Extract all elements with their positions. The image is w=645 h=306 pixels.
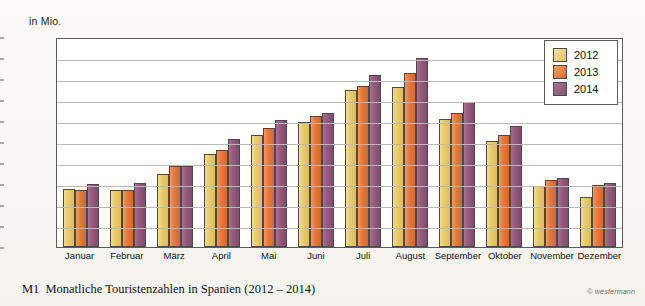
bar-2012 <box>251 135 263 247</box>
bar-2013 <box>122 190 134 247</box>
legend-label: 2012 <box>574 49 598 61</box>
bar-group <box>439 39 475 247</box>
y-axis-tick-mark <box>0 164 4 165</box>
bar-groups <box>57 39 622 247</box>
legend-swatch-icon <box>553 65 567 79</box>
bar-2014 <box>604 183 616 247</box>
y-axis-tick-mark <box>0 227 4 228</box>
gridline <box>57 228 622 229</box>
gridline <box>57 165 622 166</box>
x-axis-label: April <box>198 250 244 261</box>
bar-2014 <box>557 178 569 247</box>
gridline <box>57 81 622 82</box>
bar-2012 <box>110 190 122 247</box>
bar-2014 <box>416 58 428 247</box>
y-axis-tick-mark <box>0 59 4 60</box>
chart-figure: in Mio. 109876543210 JanuarFebruarMärzAp… <box>0 0 645 306</box>
x-axis-label: September <box>435 250 481 261</box>
plot-area <box>56 38 623 248</box>
bar-2013 <box>263 128 275 247</box>
y-axis-tick-mark <box>0 101 4 102</box>
x-axis-label: Juli <box>340 250 386 261</box>
legend-item-2013: 2013 <box>553 65 611 79</box>
bar-2013 <box>404 73 416 247</box>
bar-2014 <box>134 183 146 247</box>
gridline <box>57 60 622 61</box>
y-axis-tick-mark <box>0 143 4 144</box>
bar-2012 <box>63 189 75 247</box>
y-axis-tick-mark <box>0 122 4 123</box>
x-axis-label: Januar <box>57 250 103 261</box>
figure-title: Monatliche Touristenzahlen in Spanien (2… <box>45 282 315 296</box>
x-axis-labels: JanuarFebruarMärzAprilMaiJuniJuliAugustS… <box>56 250 623 268</box>
bar-group <box>110 39 146 247</box>
bar-group <box>298 39 334 247</box>
x-axis-label: Oktober <box>482 250 528 261</box>
bar-2012 <box>533 186 545 247</box>
bar-group <box>63 39 99 247</box>
legend-label: 2013 <box>574 66 598 78</box>
chart-legend: 201220132014 <box>544 40 618 105</box>
legend-swatch-icon <box>553 82 567 96</box>
x-axis-label: Februar <box>104 250 150 261</box>
bar-2014 <box>228 139 240 247</box>
x-axis-label: März <box>151 250 197 261</box>
gridline <box>57 102 622 103</box>
bar-2012 <box>392 87 404 247</box>
bar-2013 <box>357 86 369 247</box>
figure-caption: M1Monatliche Touristenzahlen in Spanien … <box>22 282 315 297</box>
bar-2012 <box>486 141 498 247</box>
x-axis-label: Juni <box>293 250 339 261</box>
bar-2013 <box>498 135 510 247</box>
bar-2014 <box>87 184 99 247</box>
gridline <box>57 144 622 145</box>
bar-2014 <box>369 75 381 247</box>
bar-2014 <box>322 113 334 247</box>
y-axis: 109876543210 <box>0 0 56 306</box>
bar-2012 <box>204 154 216 247</box>
legend-item-2014: 2014 <box>553 82 611 96</box>
y-axis-tick-mark <box>0 38 4 39</box>
y-axis-tick-mark <box>0 80 4 81</box>
bar-group <box>204 39 240 247</box>
bar-2012 <box>345 90 357 248</box>
bar-2013 <box>545 180 557 247</box>
figure-ref: M1 <box>22 282 39 296</box>
y-axis-tick-mark <box>0 248 4 249</box>
x-axis-label: November <box>529 250 575 261</box>
gridline <box>57 207 622 208</box>
gridline <box>57 186 622 187</box>
bar-2013 <box>75 190 87 247</box>
bar-group <box>251 39 287 247</box>
bar-2012 <box>157 174 169 248</box>
x-axis-label: Dezember <box>576 250 622 261</box>
gridline <box>57 123 622 124</box>
legend-label: 2014 <box>574 83 598 95</box>
bar-group <box>157 39 193 247</box>
bar-group <box>345 39 381 247</box>
x-axis-label: August <box>387 250 433 261</box>
y-axis-tick-mark <box>0 185 4 186</box>
bar-2012 <box>580 197 592 247</box>
y-axis-tick-mark <box>0 206 4 207</box>
x-axis-label: Mai <box>246 250 292 261</box>
legend-item-2012: 2012 <box>553 48 611 62</box>
bar-2013 <box>451 113 463 247</box>
bar-group <box>486 39 522 247</box>
bar-2013 <box>592 185 604 247</box>
copyright-credit: © westermann <box>587 288 635 295</box>
bar-group <box>392 39 428 247</box>
legend-swatch-icon <box>553 48 567 62</box>
